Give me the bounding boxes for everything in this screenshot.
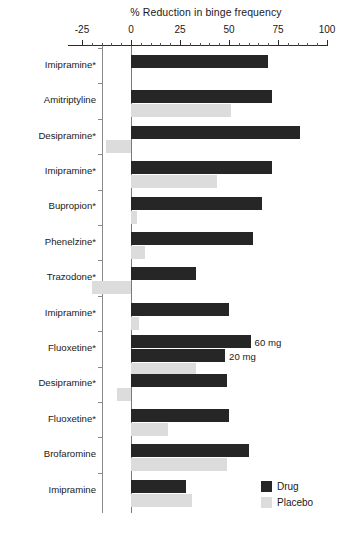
x-tick-label: 75 [272, 24, 283, 35]
category-label: Bupropion* [49, 200, 96, 211]
category-label: Imipramine [49, 483, 96, 494]
category-label: Desipramine* [38, 129, 96, 140]
y-tick [98, 119, 103, 120]
category-label: Fluoxetine* [48, 412, 96, 423]
bar-placebo [106, 140, 131, 153]
chart-legend: Drug Placebo [261, 478, 339, 510]
category-label: Imipramine* [45, 164, 96, 175]
y-tick [98, 402, 103, 403]
bar-drug [131, 444, 249, 457]
bar-drug [131, 232, 253, 245]
legend-swatch-drug-icon [261, 481, 272, 492]
bar-drug [131, 374, 227, 387]
y-axis-line [102, 46, 103, 513]
bar-placebo [131, 175, 217, 188]
y-tick [98, 48, 103, 49]
category-label: Imipramine* [45, 306, 96, 317]
y-tick [98, 367, 103, 368]
bar-placebo [92, 281, 131, 294]
bar-drug [131, 335, 251, 348]
y-tick [98, 225, 103, 226]
x-tick-label: 0 [128, 24, 134, 35]
category-label: Amitriptyline [44, 94, 96, 105]
x-tick-label: 50 [223, 24, 234, 35]
y-tick [98, 331, 103, 332]
category-label: Phenelzine* [45, 235, 96, 246]
category-label: Desipramine* [38, 377, 96, 388]
bar-placebo [131, 494, 192, 507]
bar-placebo [131, 246, 145, 259]
legend-swatch-placebo-icon [261, 497, 272, 508]
y-tick [98, 154, 103, 155]
bar-drug [131, 90, 272, 103]
x-tick-label: -25 [75, 24, 89, 35]
bar-drug [131, 480, 186, 493]
bar-drug-secondary [131, 349, 225, 362]
bar-placebo [131, 458, 227, 471]
x-axis-tick-labels: -250255075100 [0, 24, 342, 38]
bar-drug [131, 303, 229, 316]
legend-item-drug: Drug [261, 478, 339, 494]
legend-label-drug: Drug [277, 481, 299, 492]
bar-drug [131, 55, 268, 68]
bar-placebo [131, 211, 137, 224]
bar-placebo [117, 388, 131, 401]
bar-placebo [131, 423, 168, 436]
category-label: Brofaromine [44, 448, 96, 459]
bar-placebo [131, 317, 139, 330]
y-tick [98, 296, 103, 297]
y-tick [98, 473, 103, 474]
y-tick [98, 190, 103, 191]
bar-drug [131, 126, 300, 139]
y-tick [98, 83, 103, 84]
binge-frequency-bar-chart: % Reduction in binge frequency -25025507… [0, 0, 342, 535]
bar-annotation-20mg: 20 mg [229, 350, 256, 361]
chart-title: % Reduction in binge frequency [100, 6, 312, 18]
legend-label-placebo: Placebo [277, 497, 313, 508]
plot-area: Imipramine*AmitriptylineDesipramine*Imip… [0, 46, 342, 513]
category-label: Trazodone* [47, 271, 96, 282]
bar-drug [131, 267, 196, 280]
x-tick-label: 25 [174, 24, 185, 35]
legend-item-placebo: Placebo [261, 494, 339, 510]
bar-drug [131, 197, 262, 210]
bar-drug [131, 409, 229, 422]
bar-annotation-60mg: 60 mg [255, 336, 282, 347]
y-tick [98, 437, 103, 438]
bar-drug [131, 161, 272, 174]
category-label: Fluoxetine* [48, 341, 96, 352]
category-label: Imipramine* [45, 58, 96, 69]
bar-placebo [131, 104, 231, 117]
y-tick [98, 260, 103, 261]
x-tick-label: 100 [319, 24, 336, 35]
